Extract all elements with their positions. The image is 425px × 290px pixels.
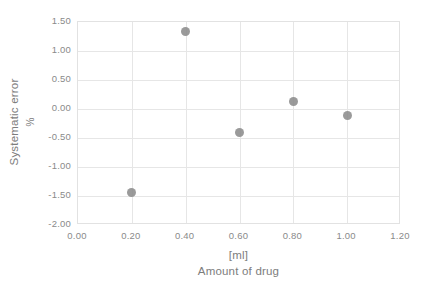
y-axis-tick-label: -1.50 [29,190,71,200]
gridline-horizontal [78,80,399,81]
x-axis-tick-label: 1.00 [324,231,368,241]
scatter-chart: 1.501.000.500.00-0.50-1.00-1.50-2.00 Sys… [0,0,425,290]
data-point [289,97,298,106]
gridline-vertical [186,22,187,223]
gridline-vertical [347,22,348,223]
x-axis-title-text: Amount of drug [77,263,400,279]
gridline-horizontal [78,167,399,168]
y-axis-tick-label: 1.00 [29,45,71,55]
x-axis-tick-label: 0.20 [109,231,153,241]
x-axis-tick-label: 0.40 [163,231,207,241]
gridline-horizontal [78,51,399,52]
y-axis-tick-label: -1.00 [29,161,71,171]
gridline-horizontal [78,138,399,139]
y-axis-title: Systematic error % [8,34,34,210]
gridline-horizontal [78,109,399,110]
x-axis-title: [ml] Amount of drug [77,247,400,279]
y-axis-tick-label: -2.00 [29,219,71,229]
x-axis-tick-label: 0.60 [217,231,261,241]
gridline-vertical [240,22,241,223]
y-axis-tick-label: -0.50 [29,132,71,142]
gridline-vertical [293,22,294,223]
x-axis-tick-label: 0.00 [55,231,99,241]
x-axis-tick-label: 1.20 [378,231,422,241]
data-point [235,128,244,137]
gridline-horizontal [78,196,399,197]
y-axis-tick-label: 0.00 [29,103,71,113]
y-axis-title-text: Systematic error [8,79,20,166]
plot-area [77,21,400,224]
data-point [181,27,190,36]
y-axis-unit-text: % [25,117,36,126]
y-axis-tick-label: 1.50 [29,16,71,26]
data-point [343,111,352,120]
x-axis-unit-text: [ml] [77,247,400,263]
y-axis-tick-label: 0.50 [29,74,71,84]
x-axis-tick-label: 0.80 [270,231,314,241]
